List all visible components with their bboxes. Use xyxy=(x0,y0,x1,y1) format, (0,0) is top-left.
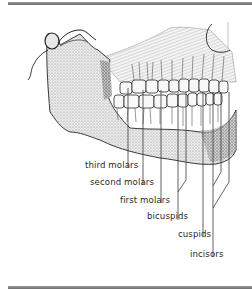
label-incisors: incisors xyxy=(190,249,224,259)
label-first-molars: first molars xyxy=(120,195,170,205)
label-second-molars: second molars xyxy=(90,177,154,187)
jaw-illustration xyxy=(0,0,252,291)
lower-teeth xyxy=(114,93,222,108)
leader-incisors xyxy=(213,92,229,257)
upper-teeth xyxy=(120,79,228,94)
maxilla xyxy=(100,27,236,82)
bottom-rule xyxy=(8,286,252,289)
label-cuspids: cuspids xyxy=(178,229,211,239)
label-third-molars: third molars xyxy=(85,160,138,170)
condyle xyxy=(45,33,59,49)
label-bicuspids: bicuspids xyxy=(147,211,188,221)
